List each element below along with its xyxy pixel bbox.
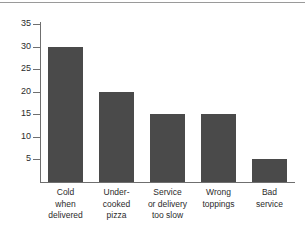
x-axis-category-label-line: pizza: [91, 210, 142, 222]
y-axis-tick-label: 15: [0, 109, 31, 118]
x-axis-category-label-line: Service: [142, 187, 193, 199]
y-axis-tick-label: 5: [0, 154, 31, 163]
y-axis-tick: [33, 47, 40, 48]
y-axis-tick: [33, 114, 40, 115]
y-axis-tick: [33, 24, 40, 25]
y-axis-tick: [33, 159, 40, 160]
y-axis-tick-label-text: 30: [5, 42, 31, 51]
y-axis-tick: [33, 92, 40, 93]
y-axis-tick-label: 25: [0, 64, 31, 73]
x-axis-category-label-line: Under-: [91, 187, 142, 199]
x-axis-category-label-line: Wrong: [193, 187, 244, 199]
x-axis-category-label-line: delivered: [40, 210, 91, 222]
y-axis-tick-label-text: 35: [5, 19, 31, 28]
bar: [252, 159, 287, 182]
x-axis-category-label: Coldwhendelivered: [40, 187, 91, 222]
bar: [48, 47, 83, 182]
bar: [99, 92, 134, 182]
bar: [150, 114, 185, 182]
x-axis-line: [40, 182, 295, 183]
x-axis-category-label-line: toppings: [193, 199, 244, 211]
y-axis-tick-label-text: 15: [5, 109, 31, 118]
x-axis-category-label-line: too slow: [142, 210, 193, 222]
x-axis-category-label: Under-cookedpizza: [91, 187, 142, 222]
y-axis-tick-label: 20: [0, 87, 31, 96]
x-axis-category-label: Serviceor deliverytoo slow: [142, 187, 193, 222]
y-axis-tick-label-text: 10: [5, 132, 31, 141]
y-axis-tick-label-text: 5: [5, 154, 31, 163]
plot-area: [40, 24, 295, 182]
x-axis-category-label-line: cooked: [91, 199, 142, 211]
x-axis-category-label-line: service: [244, 199, 295, 211]
y-axis-tick: [33, 69, 40, 70]
x-axis-category-label-line: Cold: [40, 187, 91, 199]
bar-chart-figure: 3530252015105 ColdwhendeliveredUnder-coo…: [0, 0, 305, 235]
y-axis-tick-label: 10: [0, 132, 31, 141]
x-axis-category-label: Badservice: [244, 187, 295, 210]
y-axis-tick: [33, 137, 40, 138]
x-axis-category-label: Wrongtoppings: [193, 187, 244, 210]
y-axis-tick-label-text: 20: [5, 87, 31, 96]
x-axis-category-label-line: when: [40, 199, 91, 211]
y-axis-tick-label: 30: [0, 42, 31, 51]
y-axis-tick-label-text: 25: [5, 64, 31, 73]
y-axis-tick-label: 35: [0, 19, 31, 28]
x-axis-category-label-line: Bad: [244, 187, 295, 199]
bar: [201, 114, 236, 182]
x-axis-category-label-line: or delivery: [142, 199, 193, 211]
top-divider-rule: [0, 2, 305, 3]
